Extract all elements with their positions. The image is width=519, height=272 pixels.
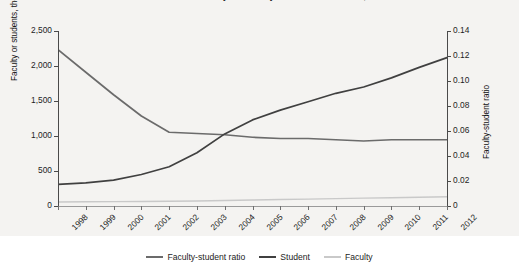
legend-item[interactable]: Student bbox=[259, 252, 310, 262]
x-axis-tick bbox=[336, 206, 337, 210]
x-axis-tick-label: 2000 bbox=[125, 212, 145, 232]
right-axis-tick bbox=[447, 106, 451, 107]
figure-title-strip: FIGURE 4.4Numbers of medical students an… bbox=[0, 0, 519, 6]
left-axis-tick bbox=[54, 136, 58, 137]
figure-title: FIGURE 4.4Numbers of medical students an… bbox=[6, 0, 410, 1]
right-axis-tick-label: 0.10 bbox=[453, 75, 493, 85]
left-axis-tick-label: 500 bbox=[8, 165, 52, 175]
left-axis-tick bbox=[54, 66, 58, 67]
right-axis-tick bbox=[447, 56, 451, 57]
left-axis-title: Faculty or students, thousands bbox=[10, 0, 19, 81]
x-axis-tick bbox=[253, 206, 254, 210]
left-axis-tick-label: 1,000 bbox=[8, 130, 52, 140]
x-axis-tick bbox=[280, 206, 281, 210]
right-axis-tick bbox=[447, 181, 451, 182]
legend-label: Student bbox=[280, 252, 310, 262]
x-axis-tick bbox=[308, 206, 309, 210]
figure-title-text: Numbers of medical students and faculty … bbox=[64, 0, 411, 1]
x-axis-tick bbox=[141, 206, 142, 210]
x-axis-tick-label: 2012 bbox=[458, 212, 478, 232]
right-axis-tick-label: 0.14 bbox=[453, 25, 493, 35]
right-axis-tick-label: 0.12 bbox=[453, 50, 493, 60]
x-axis-tick-label: 2001 bbox=[153, 212, 173, 232]
x-axis-tick-label: 2008 bbox=[347, 212, 367, 232]
x-axis-tick bbox=[447, 206, 448, 210]
series-line-faculty bbox=[58, 197, 447, 202]
left-axis-tick bbox=[54, 31, 58, 32]
right-axis-title: Faculty-student ratio bbox=[482, 85, 491, 159]
legend-label: Faculty bbox=[345, 252, 373, 262]
x-axis-tick bbox=[225, 206, 226, 210]
legend-swatch-icon bbox=[259, 256, 276, 258]
right-axis-tick-label: 0.02 bbox=[453, 175, 493, 185]
x-axis-tick bbox=[364, 206, 365, 210]
x-axis-tick-label: 2005 bbox=[264, 212, 284, 232]
series-lines bbox=[58, 31, 448, 207]
legend-item[interactable]: Faculty-student ratio bbox=[146, 252, 245, 262]
x-axis-tick-label: 2003 bbox=[208, 212, 228, 232]
x-axis-tick bbox=[197, 206, 198, 210]
legend-swatch-icon bbox=[324, 256, 341, 258]
left-axis-tick-label: 1,500 bbox=[8, 95, 52, 105]
figure-container: FIGURE 4.4Numbers of medical students an… bbox=[0, 0, 519, 272]
x-axis-tick bbox=[419, 206, 420, 210]
x-axis-tick-label: 1999 bbox=[97, 212, 117, 232]
x-axis-tick bbox=[114, 206, 115, 210]
x-axis-tick-label: 2007 bbox=[320, 212, 340, 232]
plot-area: 05001,0001,5002,0002,500 00.020.040.060.… bbox=[58, 31, 448, 206]
right-axis-tick bbox=[447, 81, 451, 82]
series-line-faculty-student-ratio bbox=[58, 50, 447, 141]
right-axis-tick bbox=[447, 131, 451, 132]
right-axis-tick bbox=[447, 31, 451, 32]
x-axis-tick-label: 2010 bbox=[403, 212, 423, 232]
legend-swatch-icon bbox=[146, 256, 163, 258]
left-axis-tick bbox=[54, 171, 58, 172]
x-axis-tick-label: 2004 bbox=[236, 212, 256, 232]
x-axis-tick bbox=[391, 206, 392, 210]
x-axis-tick-label: 2011 bbox=[430, 212, 450, 232]
legend-label: Faculty-student ratio bbox=[167, 252, 245, 262]
left-axis-line bbox=[58, 31, 59, 206]
right-axis-line bbox=[447, 31, 448, 206]
chart-legend: Faculty-student ratioStudentFaculty bbox=[0, 250, 519, 264]
legend-item[interactable]: Faculty bbox=[324, 252, 373, 262]
x-axis-tick bbox=[86, 206, 87, 210]
right-axis-tick bbox=[447, 156, 451, 157]
x-axis-tick bbox=[169, 206, 170, 210]
left-axis-tick-label: 0 bbox=[8, 200, 52, 210]
x-axis-tick-label: 1998 bbox=[69, 212, 89, 232]
x-axis-tick-label: 2002 bbox=[181, 212, 201, 232]
x-axis-tick-label: 2009 bbox=[375, 212, 395, 232]
x-axis-tick bbox=[58, 206, 59, 210]
x-axis-tick-label: 2006 bbox=[292, 212, 312, 232]
left-axis-tick bbox=[54, 101, 58, 102]
right-axis-tick-label: 0 bbox=[453, 200, 493, 210]
series-line-student bbox=[58, 58, 447, 185]
